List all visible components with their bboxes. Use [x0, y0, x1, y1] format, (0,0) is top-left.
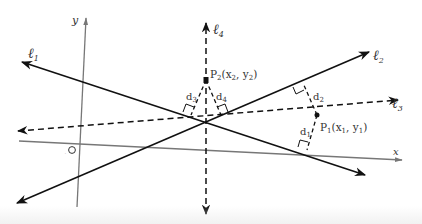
y-axis — [77, 18, 86, 207]
label-d2: d2 — [313, 91, 324, 104]
label-d3: d3 — [186, 91, 197, 104]
label-l3: ℓ3 — [392, 95, 403, 113]
coordinate-axes — [19, 18, 402, 207]
point-p2-marker — [204, 77, 209, 83]
origin-label: O — [65, 153, 66, 155]
point-p1-marker — [315, 113, 320, 118]
page-edge-shadow — [0, 206, 422, 224]
label-l2: ℓ2 — [373, 47, 384, 65]
right-angle-marks — [183, 87, 308, 147]
label-l4: ℓ4 — [213, 21, 224, 39]
x-axis-label: x — [393, 146, 399, 157]
label-l1: ℓ1 — [28, 45, 39, 63]
origin-marker — [69, 147, 76, 154]
x-axis — [19, 141, 402, 160]
label-p1: P1(x1, y1) — [320, 121, 367, 135]
label-d1: d1 — [300, 126, 311, 139]
label-d4: d4 — [216, 91, 227, 104]
y-axis-label: y — [71, 14, 79, 27]
label-p2: P2(x2, y2) — [210, 68, 257, 82]
line-l1 — [22, 62, 365, 175]
angle-bisector-diagram: y x ℓ1 ℓ2 ℓ3 ℓ4 P2(x2, y2) P1(x1, y1) d3… — [0, 0, 422, 224]
